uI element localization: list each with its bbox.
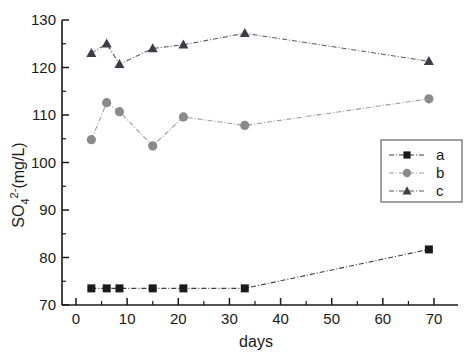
marker-square bbox=[103, 284, 111, 292]
legend-label-a: a bbox=[436, 146, 445, 163]
x-axis-title: days bbox=[239, 333, 273, 350]
marker-square bbox=[241, 284, 249, 292]
chart-figure: 708090100110120130 010203040506070 SO42-… bbox=[0, 0, 466, 353]
marker-circle bbox=[148, 141, 157, 150]
x-tick-label: 10 bbox=[119, 310, 136, 327]
x-tick-label: 0 bbox=[72, 310, 80, 327]
legend-box bbox=[381, 140, 462, 202]
x-tick-label: 50 bbox=[323, 310, 340, 327]
x-tick-label: 20 bbox=[170, 310, 187, 327]
y-tick-label: 70 bbox=[39, 296, 56, 313]
chart-canvas: 708090100110120130 010203040506070 SO42-… bbox=[0, 0, 466, 353]
marker-circle bbox=[403, 169, 411, 177]
marker-square bbox=[87, 284, 95, 292]
y-tick-label: 90 bbox=[39, 201, 56, 218]
y-title-subscript: 4 bbox=[19, 198, 31, 204]
y-title-base: SO bbox=[10, 205, 27, 228]
marker-square bbox=[179, 284, 187, 292]
chart-legend: abc bbox=[381, 140, 462, 202]
marker-square bbox=[403, 151, 410, 158]
y-tick-label: 100 bbox=[31, 154, 56, 171]
x-tick-label: 30 bbox=[221, 310, 238, 327]
x-tick-label: 70 bbox=[426, 310, 443, 327]
marker-circle bbox=[179, 112, 188, 121]
marker-square bbox=[115, 284, 123, 292]
y-tick-label: 110 bbox=[32, 106, 56, 123]
y-title-units: (mg/L) bbox=[10, 142, 27, 188]
y-title-superscript: 2- bbox=[8, 188, 20, 198]
marker-square bbox=[425, 245, 433, 253]
x-tick-label: 60 bbox=[375, 310, 392, 327]
y-tick-label: 120 bbox=[31, 59, 56, 76]
marker-circle bbox=[115, 107, 124, 116]
y-tick-label: 80 bbox=[39, 249, 56, 266]
marker-circle bbox=[240, 121, 249, 130]
legend-label-c: c bbox=[436, 182, 444, 199]
marker-square bbox=[149, 284, 157, 292]
marker-circle bbox=[424, 94, 433, 103]
marker-circle bbox=[102, 98, 111, 107]
legend-label-b: b bbox=[436, 164, 444, 181]
marker-circle bbox=[87, 135, 96, 144]
x-tick-label: 40 bbox=[272, 310, 289, 327]
y-tick-label: 130 bbox=[31, 11, 56, 28]
x-axis-title-text: days bbox=[239, 333, 273, 350]
